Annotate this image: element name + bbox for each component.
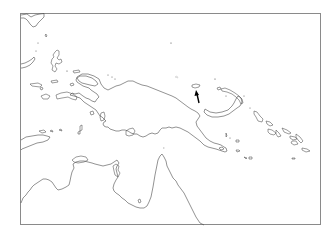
- map-border: [21, 14, 321, 225]
- new-britain-coast: [204, 96, 242, 117]
- small-islands: [36, 42, 251, 138]
- timor-coast: [21, 135, 50, 150]
- tiwi-islands-coast: [72, 156, 88, 163]
- australia-coast: [21, 154, 204, 225]
- new-ireland-coast: [221, 88, 243, 104]
- mindanao-coast: [21, 14, 44, 28]
- frederik-hendrik-coast: [126, 128, 135, 136]
- kai-coast: [80, 125, 82, 131]
- map-canvas: [0, 0, 336, 229]
- faint-marks: [163, 76, 178, 149]
- buru-coast: [41, 94, 50, 99]
- coastlines: [21, 14, 310, 226]
- morotai-coast: [45, 34, 47, 37]
- manus-island-coast: [192, 84, 200, 88]
- sulawesi-coast: [21, 57, 35, 68]
- arrow-up-icon: [195, 90, 200, 103]
- bougainville-coast: [254, 111, 263, 122]
- halmahera-coast: [51, 50, 62, 72]
